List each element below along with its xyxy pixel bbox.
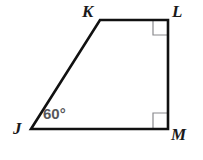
vertex-label-l: L xyxy=(172,3,182,20)
geometry-figure: J K L M 60° xyxy=(0,0,203,160)
angle-measure-label-j: 60° xyxy=(43,106,66,121)
right-angle-mark-m xyxy=(153,113,167,128)
vertex-label-m: M xyxy=(171,126,186,143)
vertex-label-j: J xyxy=(13,120,22,137)
right-angle-mark-l xyxy=(153,21,167,35)
vertex-label-k: K xyxy=(82,3,93,20)
